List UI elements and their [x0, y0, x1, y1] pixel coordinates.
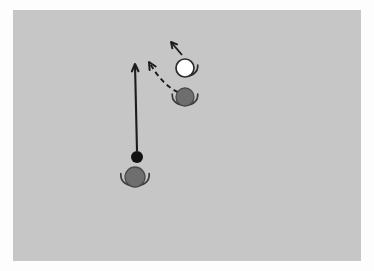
pass-arrow-shaft	[149, 62, 178, 92]
pass-arrow	[149, 62, 178, 92]
player-bottom-body	[125, 167, 145, 187]
player-dark-right-body	[176, 88, 194, 106]
player-bottom[interactable]	[121, 167, 149, 187]
movement-arrow	[132, 64, 139, 151]
ball[interactable]	[131, 151, 143, 163]
player-light-right-body	[176, 59, 194, 77]
diagram-canvas	[0, 0, 374, 271]
run-arrow	[171, 42, 182, 55]
player-light-right[interactable]	[176, 59, 198, 77]
diagram-overlay	[0, 0, 374, 271]
movement-arrow-shaft	[135, 64, 137, 151]
